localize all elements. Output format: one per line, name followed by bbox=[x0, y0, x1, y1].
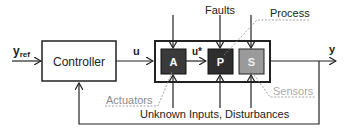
output-label: y bbox=[329, 43, 336, 55]
control-signal-label: u bbox=[133, 45, 140, 57]
sensors-annotation-label: Sensors bbox=[273, 85, 314, 97]
process-block-label: P bbox=[217, 56, 224, 68]
controller-label: Controller bbox=[53, 55, 105, 69]
input-label: yref bbox=[13, 44, 30, 59]
fault-diagnosis-block-diagram: yref Controller u A u* P S y Faults Proc… bbox=[0, 0, 349, 134]
disturbances-label: Unknown Inputs, Disturbances bbox=[140, 108, 290, 120]
faults-label: Faults bbox=[205, 4, 235, 16]
actuator-block-label: A bbox=[170, 56, 178, 68]
process-annotation-label: Process bbox=[270, 7, 310, 19]
actuators-annotation-label: Actuators bbox=[106, 94, 153, 106]
sensor-block-label: S bbox=[248, 56, 255, 68]
actuated-signal-label: u* bbox=[192, 46, 202, 57]
